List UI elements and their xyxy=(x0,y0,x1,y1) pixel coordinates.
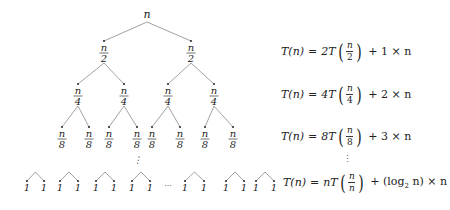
equation-level-3: T(n) = 8T ( n8 ) + 3 × n xyxy=(281,126,411,147)
tree-edge xyxy=(226,172,235,181)
tree-edge xyxy=(185,172,195,181)
equals-sign: = xyxy=(310,176,319,189)
fraction-denominator: 8 xyxy=(230,139,236,150)
fraction-numerator: n xyxy=(202,128,208,139)
leaf-node: 1 xyxy=(75,182,81,193)
leaf-node: 1 xyxy=(41,182,47,193)
leaf-node: 1 xyxy=(111,182,117,193)
fraction-denominator: 8 xyxy=(134,139,140,150)
left-paren: ( xyxy=(338,85,343,105)
tree-edge xyxy=(124,106,137,127)
tree-edge xyxy=(78,63,104,84)
left-paren: ( xyxy=(340,173,345,193)
tree-edge xyxy=(109,106,124,127)
tree-edge xyxy=(205,106,214,127)
leaf-node: 1 xyxy=(253,182,259,193)
fraction-numerator: n xyxy=(101,42,107,53)
leaf-node: 1 xyxy=(271,182,277,193)
equation-lhs: T(n) xyxy=(281,88,304,101)
tree-edge xyxy=(235,172,244,181)
equation-level-1: T(n) = 2T ( n2 ) + 1 × n xyxy=(281,41,411,62)
equation-cost-term: + 3 × n xyxy=(368,130,411,143)
fraction-denominator: 2 xyxy=(100,53,107,64)
right-paren: ) xyxy=(357,42,362,62)
equation-coefficient: 4T xyxy=(321,88,335,101)
left-paren: ( xyxy=(338,127,343,147)
fraction-numerator: n xyxy=(59,128,65,139)
fraction-numerator: n xyxy=(106,128,112,139)
fraction-numerator: n xyxy=(230,128,236,139)
tree-edge xyxy=(105,172,114,181)
tree-edge xyxy=(36,172,45,181)
fraction-denominator: 4 xyxy=(164,96,171,107)
tree-edge xyxy=(104,63,124,84)
equation-lhs: T(n) xyxy=(281,130,304,143)
leaf-node: 1 xyxy=(93,182,99,193)
fraction-numerator: n xyxy=(86,128,92,139)
equals-sign: = xyxy=(308,88,317,101)
right-paren: ) xyxy=(357,85,362,105)
tree-edge xyxy=(195,172,205,181)
equation-coefficient: 2T xyxy=(321,45,335,58)
fraction-numerator: n xyxy=(121,85,127,96)
tree-edge xyxy=(96,172,105,181)
equation-fraction: n2 xyxy=(346,41,353,62)
tree-edge xyxy=(147,22,191,41)
equation-fraction: nn xyxy=(348,172,355,193)
tree-vertical-ellipsis: ⋮ xyxy=(133,155,142,165)
equation-cost-term: + (log2 n) × n xyxy=(370,175,447,190)
right-paren: ) xyxy=(359,173,364,193)
equation-cost-term: + 2 × n xyxy=(368,88,411,101)
leaf-node: 1 xyxy=(129,182,135,193)
tree-edge xyxy=(104,22,147,41)
equation-fraction: n4 xyxy=(346,84,353,105)
fraction-numerator: n xyxy=(188,42,194,53)
equation-coefficient: 8T xyxy=(321,130,335,143)
tree-edge xyxy=(141,172,150,181)
fraction-denominator: 8 xyxy=(202,139,208,150)
leaf-node: 1 xyxy=(201,182,207,193)
fraction-denominator: 4 xyxy=(210,96,217,107)
leaf-node: 1 xyxy=(147,182,153,193)
equation-lhs: T(n) xyxy=(281,45,304,58)
tree-edge xyxy=(27,172,36,181)
tree-horizontal-ellipsis: ··· xyxy=(164,181,172,190)
fraction-denominator: 8 xyxy=(149,139,155,150)
equals-sign: = xyxy=(308,45,317,58)
tree-edge xyxy=(78,106,89,127)
tree-edge xyxy=(265,172,274,181)
equation-fraction: n8 xyxy=(346,126,353,147)
leaf-node: 1 xyxy=(24,182,30,193)
tree-edge xyxy=(69,172,78,181)
equals-sign: = xyxy=(308,130,317,143)
leaf-node: 1 xyxy=(57,182,63,193)
equation-level-2: T(n) = 4T ( n4 ) + 2 × n xyxy=(281,84,411,105)
fraction-denominator: 8 xyxy=(59,139,65,150)
fraction-numerator: n xyxy=(165,85,171,96)
fraction-numerator: n xyxy=(75,85,81,96)
fraction-denominator: 8 xyxy=(106,139,112,150)
fraction-denominator: 4 xyxy=(74,96,81,107)
fraction-denominator: 8 xyxy=(86,139,92,150)
right-paren: ) xyxy=(357,127,362,147)
tree-edge xyxy=(191,63,214,84)
tree-edge xyxy=(152,106,168,127)
tree-edge xyxy=(132,172,141,181)
tree-edge xyxy=(168,63,191,84)
fraction-numerator: n xyxy=(134,128,140,139)
leaf-node: 1 xyxy=(241,182,247,193)
fraction-numerator: n xyxy=(211,85,217,96)
equations-vertical-ellipsis: ⋮ xyxy=(343,158,349,161)
equation-cost-term: + 1 × n xyxy=(368,45,411,58)
tree-edge xyxy=(168,106,180,127)
tree-edge xyxy=(60,172,69,181)
tree-edge xyxy=(256,172,265,181)
equation-lhs: T(n) xyxy=(283,176,306,189)
leaf-node: 1 xyxy=(223,182,229,193)
fraction-numerator: n xyxy=(149,128,155,139)
fraction-numerator: n xyxy=(177,128,183,139)
left-paren: ( xyxy=(338,42,343,62)
equation-coefficient: nT xyxy=(323,176,337,189)
tree-edge xyxy=(62,106,78,127)
fraction-denominator: 8 xyxy=(177,139,183,150)
